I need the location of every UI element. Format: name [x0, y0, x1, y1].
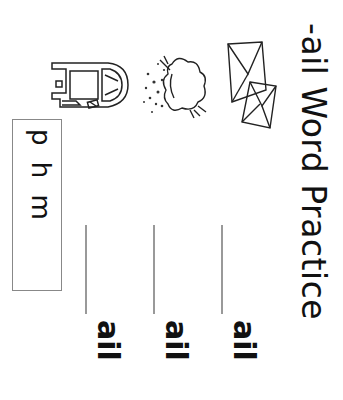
mail-envelopes-picture — [222, 40, 282, 130]
worksheet-page: -ail Word Practice — [0, 0, 343, 400]
word-ending-3: ail — [224, 320, 264, 361]
answer-blank-line-2[interactable] — [153, 225, 155, 314]
answer-blank-line-3[interactable] — [221, 225, 223, 314]
hail-picture — [138, 50, 210, 122]
word-ending-1: ail — [88, 320, 128, 361]
letter-bank-letters: p h m — [27, 129, 55, 220]
worksheet-title: -ail Word Practice — [293, 23, 333, 320]
letter-bank-box: p h m — [12, 119, 62, 291]
answer-blank-line-1[interactable] — [85, 225, 87, 314]
word-ending-2: ail — [156, 320, 196, 361]
mail-truck-picture — [50, 55, 132, 113]
